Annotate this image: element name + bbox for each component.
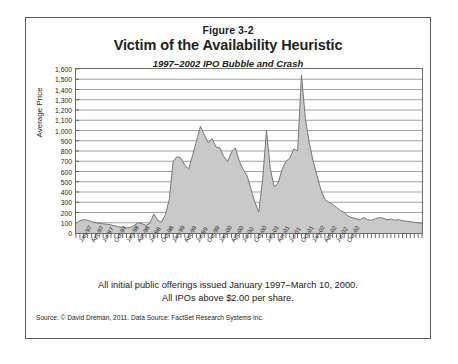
y-tick-label: 800 bbox=[61, 148, 72, 155]
y-tick-label: 1,000 bbox=[55, 127, 72, 134]
chart-grid bbox=[75, 68, 423, 234]
y-tick-label: 900 bbox=[61, 137, 72, 144]
figure-title: Victim of the Availability Heuristic bbox=[26, 37, 430, 53]
y-tick-label: 600 bbox=[61, 168, 72, 175]
y-tick-label: 1,500 bbox=[55, 76, 72, 83]
figure-number: Figure 3-2 bbox=[26, 24, 430, 36]
y-tick-label: 200 bbox=[61, 209, 72, 216]
y-tick-label: 400 bbox=[61, 189, 72, 196]
area-fill bbox=[76, 75, 422, 233]
chart-note-line-2: All IPOs above $2.00 per share. bbox=[26, 293, 430, 303]
y-axis-ticks: 1,6001,5001,4001,3001,2001,1001,00090080… bbox=[48, 68, 72, 234]
chart-plot-area: Average Price 1,6001,5001,4001,3001,2001… bbox=[48, 68, 423, 273]
y-tick-label: 700 bbox=[61, 158, 72, 165]
y-tick-label: 0 bbox=[68, 230, 72, 237]
y-tick-label: 100 bbox=[61, 219, 72, 226]
y-tick-label: 500 bbox=[61, 178, 72, 185]
y-tick-label: 1,400 bbox=[55, 86, 72, 93]
y-tick-label: 1,600 bbox=[55, 66, 72, 73]
y-tick-label: 1,200 bbox=[55, 107, 72, 114]
source-credit: Source: © David Dreman, 2011. Data Sourc… bbox=[36, 314, 264, 321]
y-tick-label: 1,300 bbox=[55, 96, 72, 103]
ipo-price-area-chart bbox=[76, 69, 422, 233]
figure-container: Figure 3-2 Victim of the Availability He… bbox=[25, 17, 431, 339]
y-axis-title: Average Price bbox=[35, 124, 44, 138]
y-tick-label: 300 bbox=[61, 199, 72, 206]
y-tick-label: 1,100 bbox=[55, 117, 72, 124]
chart-note-line-1: All initial public offerings issued Janu… bbox=[26, 280, 430, 290]
